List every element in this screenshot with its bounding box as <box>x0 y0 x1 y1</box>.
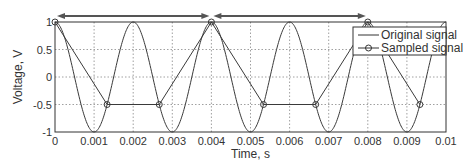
chart: 00.0010.0020.0030.0040.0050.0060.0070.00… <box>0 0 471 164</box>
x-tick-label: 0.003 <box>159 135 187 147</box>
x-tick-label: 0.01 <box>435 135 456 147</box>
x-axis-label: Time, s <box>231 147 270 161</box>
y-axis-label: Voltage, V <box>11 50 25 105</box>
y-tick-label: 0 <box>46 71 52 83</box>
x-tick-label: 0.001 <box>80 135 108 147</box>
period-arrows <box>57 13 366 19</box>
y-axis-ticks: -1-0.500.51 <box>33 16 52 138</box>
legend-original-label: Original signal <box>381 28 457 42</box>
legend-sampled-label: Sampled signal <box>381 41 463 55</box>
x-tick-label: 0.006 <box>276 135 304 147</box>
x-tick-label: 0 <box>52 135 58 147</box>
x-tick-label: 0.009 <box>393 135 421 147</box>
y-tick-label: -0.5 <box>33 99 52 111</box>
y-tick-label: -1 <box>42 126 52 138</box>
legend: Original signal Sampled signal <box>353 27 463 55</box>
x-axis-ticks: 00.0010.0020.0030.0040.0050.0060.0070.00… <box>52 135 457 147</box>
x-tick-label: 0.004 <box>198 135 226 147</box>
x-tick-label: 0.002 <box>119 135 147 147</box>
x-tick-label: 0.007 <box>315 135 343 147</box>
y-tick-label: 1 <box>46 16 52 28</box>
y-tick-label: 0.5 <box>37 44 52 56</box>
x-tick-label: 0.005 <box>237 135 265 147</box>
x-tick-label: 0.008 <box>354 135 382 147</box>
